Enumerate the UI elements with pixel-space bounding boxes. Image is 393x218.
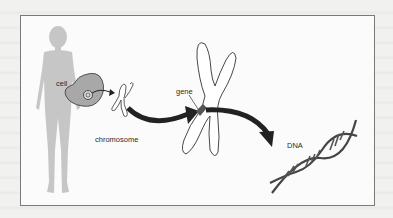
gene-label: gene [176,87,193,96]
dna-helix-icon [270,120,357,193]
human-silhouette-icon [36,26,80,193]
chromosome-label: chromosome [95,135,138,144]
dna-label: DNA [287,141,303,150]
diagram-artwork [0,0,393,218]
large-chromosome-icon [182,43,236,156]
arrow-to-gene-icon [128,108,188,121]
cell-label: cell [56,79,67,88]
